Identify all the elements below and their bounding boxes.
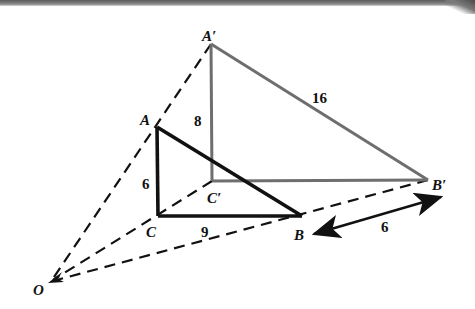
dashed-rays — [52, 44, 428, 281]
ray-o-to-c-prime — [53, 181, 212, 280]
ray-o-to-a-prime — [52, 44, 211, 280]
measure-a-c: 6 — [142, 176, 150, 192]
label-c: C — [146, 224, 157, 240]
label-a-prime: A′ — [201, 28, 216, 44]
measure-c-b: 9 — [201, 224, 209, 240]
image-triangle — [211, 44, 428, 181]
measure-a-prime-c-prime: 8 — [194, 113, 202, 129]
distance-arrow-b-b-prime — [314, 197, 441, 234]
label-b: B — [293, 227, 304, 243]
dilation-diagram: O A C B A′ C′ B′ 8 16 6 9 6 — [0, 0, 475, 309]
measure-a-prime-b-prime: 16 — [312, 90, 328, 106]
measure-b-b-prime: 6 — [381, 219, 389, 235]
label-o: O — [33, 282, 44, 298]
label-c-prime: C′ — [207, 190, 221, 206]
label-a: A — [139, 112, 150, 128]
label-b-prime: B′ — [431, 177, 446, 193]
side-a-prime-b-prime — [211, 44, 428, 180]
side-a-c — [157, 127, 158, 216]
